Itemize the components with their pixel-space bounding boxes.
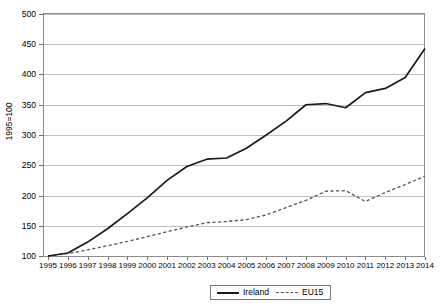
gridline xyxy=(44,74,424,75)
legend-label: Ireland xyxy=(243,288,269,297)
plot-area xyxy=(43,13,425,257)
legend-swatch-dashed-icon xyxy=(276,289,298,296)
y-tick-label: 400 xyxy=(22,70,36,79)
gridline xyxy=(44,226,424,227)
x-tick-mark xyxy=(187,257,188,260)
y-tick-mark xyxy=(39,226,43,227)
gridline xyxy=(44,135,424,136)
y-tick-mark xyxy=(39,14,43,15)
x-tick-label: 1998 xyxy=(99,262,117,270)
gridline xyxy=(44,196,424,197)
x-tick-mark xyxy=(405,257,406,260)
x-tick-label: 2005 xyxy=(238,262,256,270)
x-tick-mark xyxy=(425,257,426,260)
y-tick-label: 350 xyxy=(22,101,36,110)
x-tick-label: 2004 xyxy=(218,262,236,270)
y-tick-mark xyxy=(39,74,43,75)
x-tick-mark xyxy=(68,257,69,260)
gridline xyxy=(44,44,424,45)
x-tick-label: 2007 xyxy=(277,262,295,270)
x-tick-mark xyxy=(266,257,267,260)
legend-label: EU15 xyxy=(302,288,323,297)
x-tick-label: 2008 xyxy=(297,262,315,270)
x-tick-mark xyxy=(246,257,247,260)
y-tick-mark xyxy=(39,105,43,106)
x-tick-mark xyxy=(385,257,386,260)
x-tick-label: 1995 xyxy=(39,262,57,270)
x-tick-mark xyxy=(127,257,128,260)
x-tick-label: 2000 xyxy=(138,262,156,270)
x-tick-mark xyxy=(306,257,307,260)
y-tick-mark xyxy=(39,196,43,197)
x-tick-label: 2010 xyxy=(337,262,355,270)
x-tick-label: 2006 xyxy=(257,262,275,270)
gridline xyxy=(44,14,424,15)
legend-entry-ireland: Ireland xyxy=(217,288,269,297)
chart-legend: Ireland EU15 xyxy=(210,285,331,300)
y-tick-label: 450 xyxy=(22,40,36,49)
y-tick-mark xyxy=(39,165,43,166)
y-tick-label: 500 xyxy=(22,10,36,19)
x-tick-mark xyxy=(286,257,287,260)
x-tick-label: 2003 xyxy=(198,262,216,270)
x-tick-mark xyxy=(108,257,109,260)
x-tick-mark xyxy=(167,257,168,260)
x-tick-label: 2014 xyxy=(416,262,434,270)
x-tick-label: 2001 xyxy=(158,262,176,270)
x-tick-label: 1999 xyxy=(118,262,136,270)
x-tick-label: 2013 xyxy=(396,262,414,270)
gridline xyxy=(44,105,424,106)
x-tick-mark xyxy=(88,257,89,260)
x-tick-mark xyxy=(365,257,366,260)
x-tick-label: 2002 xyxy=(178,262,196,270)
x-tick-mark xyxy=(147,257,148,260)
x-tick-mark xyxy=(227,257,228,260)
x-tick-mark xyxy=(48,257,49,260)
x-tick-label: 2012 xyxy=(376,262,394,270)
legend-swatch-solid-icon xyxy=(217,289,239,296)
x-tick-label: 1997 xyxy=(79,262,97,270)
y-tick-mark xyxy=(39,44,43,45)
y-tick-label: 150 xyxy=(22,222,36,231)
x-tick-label: 1996 xyxy=(59,262,77,270)
x-tick-label: 2009 xyxy=(317,262,335,270)
y-tick-label: 250 xyxy=(22,161,36,170)
line-chart: 500 450 400 350 300 250 200 150 100 1995… xyxy=(0,0,440,307)
y-tick-label: 200 xyxy=(22,192,36,201)
x-tick-mark xyxy=(326,257,327,260)
y-axis-title: 1995=100 xyxy=(5,90,14,154)
x-tick-mark xyxy=(346,257,347,260)
x-axis: 1995199619971998199920002001200220032004… xyxy=(0,257,440,277)
legend-entry-eu15: EU15 xyxy=(276,288,323,297)
y-tick-label: 300 xyxy=(22,131,36,140)
y-tick-mark xyxy=(39,135,43,136)
x-tick-mark xyxy=(207,257,208,260)
gridline xyxy=(44,165,424,166)
x-tick-label: 2011 xyxy=(357,262,374,270)
